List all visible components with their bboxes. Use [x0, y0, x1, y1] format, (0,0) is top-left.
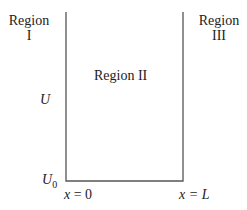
region-3-line2: III: [194, 28, 244, 43]
x-eq-left: = 0: [70, 187, 92, 202]
x-zero-label: x = 0: [64, 187, 92, 202]
region-1-label: Region I: [4, 13, 54, 43]
well-walls: [66, 12, 183, 181]
potential-u-label: U: [40, 92, 50, 107]
x-l-label: x = L: [179, 187, 209, 202]
u0-base: U: [42, 172, 52, 187]
region-1-line1: Region: [4, 13, 54, 28]
u0-subscript: 0: [52, 179, 57, 190]
region-1-line2: I: [4, 28, 54, 43]
region-2-label: Region II: [94, 68, 147, 83]
region-3-label: Region III: [194, 13, 244, 43]
region-3-line1: Region: [194, 13, 244, 28]
potential-u0-label: U0: [42, 172, 57, 192]
x-eq-right: = L: [185, 187, 209, 202]
